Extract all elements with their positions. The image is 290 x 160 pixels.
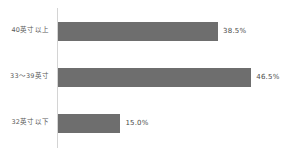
category-label-2: 32英寸以下 (0, 100, 53, 146)
value-label-1: 46.5% (256, 74, 279, 81)
plot-area: 40英寸以上 38.5% 33～39英寸 46.5% 32英寸以下 15.0% (0, 0, 290, 160)
bar-1[interactable] (58, 68, 251, 87)
bar-track-0: 38.5% (58, 8, 290, 54)
bar-chart: 40英寸以上 38.5% 33～39英寸 46.5% 32英寸以下 15.0% (0, 0, 290, 160)
bar-track-2: 15.0% (58, 100, 290, 146)
bar-track-1: 46.5% (58, 54, 290, 100)
bar-row: 40英寸以上 38.5% (0, 8, 290, 54)
bar-row: 33～39英寸 46.5% (0, 54, 290, 100)
bar-row: 32英寸以下 15.0% (0, 100, 290, 146)
category-label-1: 33～39英寸 (0, 54, 53, 100)
value-label-0: 38.5% (223, 28, 246, 35)
bar-2[interactable] (58, 114, 120, 133)
value-label-2: 15.0% (125, 120, 148, 127)
bar-0[interactable] (58, 22, 218, 41)
category-label-0: 40英寸以上 (0, 8, 53, 54)
